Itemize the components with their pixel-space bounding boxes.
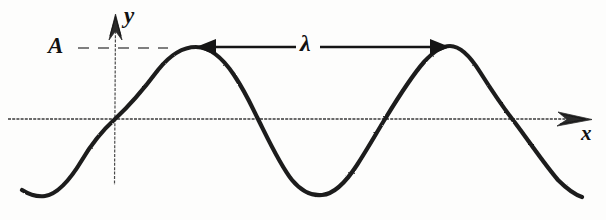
x-axis-label: x	[581, 123, 592, 144]
wavelength-right-arrowhead	[430, 39, 450, 55]
wave-diagram: A y x λ	[0, 0, 606, 220]
wavelength-label: λ	[300, 31, 311, 55]
y-axis	[109, 14, 122, 185]
y-axis-label: y	[124, 4, 134, 27]
y-axis-line	[115, 22, 116, 185]
wavelength-left-arrowhead	[196, 39, 216, 55]
wavelength-arrow	[196, 39, 450, 55]
sine-wave-path	[22, 46, 582, 197]
x-axis	[8, 112, 592, 126]
wave-curve	[22, 46, 582, 197]
amplitude-label: A	[48, 34, 63, 57]
